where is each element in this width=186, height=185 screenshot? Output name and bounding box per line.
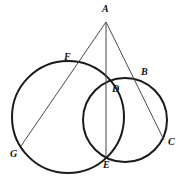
vertex-label-c: C [168,137,175,147]
vertex-label-d: D [112,84,119,94]
vertex-label-f: F [64,52,71,62]
vertex-label-a: A [102,4,109,14]
vertex-label-e: E [103,160,110,170]
secant-lines-group [21,22,164,157]
segment-a-c [106,22,164,140]
circles-group [12,61,167,173]
figure-canvas [0,0,186,185]
segment-a-g [21,22,106,146]
vertex-label-b: B [141,67,148,77]
geometry-figure: A F B D C G E [0,0,186,185]
vertex-label-g: G [10,149,17,159]
